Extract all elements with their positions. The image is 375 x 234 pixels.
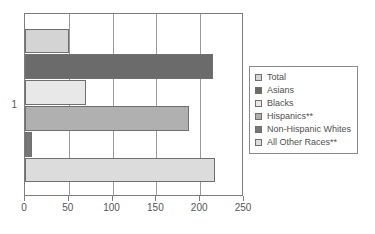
x-tick-label: 50 xyxy=(62,202,73,214)
legend-swatch-icon xyxy=(255,126,262,133)
legend-item-label: All Other Races** xyxy=(267,137,337,148)
legend-swatch-icon xyxy=(255,139,262,146)
x-tick-label: 150 xyxy=(147,202,164,214)
legend-swatch-icon xyxy=(255,74,262,81)
legend-item-label: Non-Hispanic Whites xyxy=(267,124,351,135)
legend-item-label: Hispanics** xyxy=(267,111,313,122)
legend-item[interactable]: Hispanics** xyxy=(255,110,351,123)
bar-hispanics xyxy=(25,106,189,131)
x-tick-label: 0 xyxy=(21,202,27,214)
x-tick-mark xyxy=(155,196,156,201)
x-tick-mark xyxy=(24,196,25,201)
legend-item[interactable]: Blacks xyxy=(255,97,351,110)
bar-blacks xyxy=(25,80,86,105)
legend-item[interactable]: Total xyxy=(255,71,351,84)
x-axis-tick-labels: 050100150200250 xyxy=(24,202,243,218)
x-tick-label: 100 xyxy=(103,202,120,214)
y-axis-category-labels: 1 xyxy=(0,13,22,196)
bar-chart: 050100150200250 1 TotalAsiansBlacksHispa… xyxy=(0,0,375,234)
plot-area xyxy=(24,13,243,196)
legend-item-label: Total xyxy=(267,72,286,83)
legend-swatch-icon xyxy=(255,113,262,120)
bar-all-other-races xyxy=(25,158,215,183)
x-tick-label: 200 xyxy=(191,202,208,214)
x-tick-mark xyxy=(243,196,244,201)
bars-group xyxy=(25,14,242,195)
legend-swatch-icon xyxy=(255,87,262,94)
legend-item[interactable]: All Other Races** xyxy=(255,136,351,149)
legend-item[interactable]: Non-Hispanic Whites xyxy=(255,123,351,136)
bar-non-hispanic-whites xyxy=(25,132,32,157)
legend-item[interactable]: Asians xyxy=(255,84,351,97)
x-tick-mark xyxy=(199,196,200,201)
x-tick-mark xyxy=(68,196,69,201)
x-tick-label: 250 xyxy=(235,202,252,214)
y-category-label: 1 xyxy=(11,99,17,111)
bar-asians xyxy=(25,54,213,79)
chart-legend: TotalAsiansBlacksHispanics**Non-Hispanic… xyxy=(249,66,358,154)
legend-swatch-icon xyxy=(255,100,262,107)
legend-item-label: Asians xyxy=(267,85,294,96)
legend-item-label: Blacks xyxy=(267,98,294,109)
bar-total xyxy=(25,29,69,54)
x-tick-mark xyxy=(112,196,113,201)
